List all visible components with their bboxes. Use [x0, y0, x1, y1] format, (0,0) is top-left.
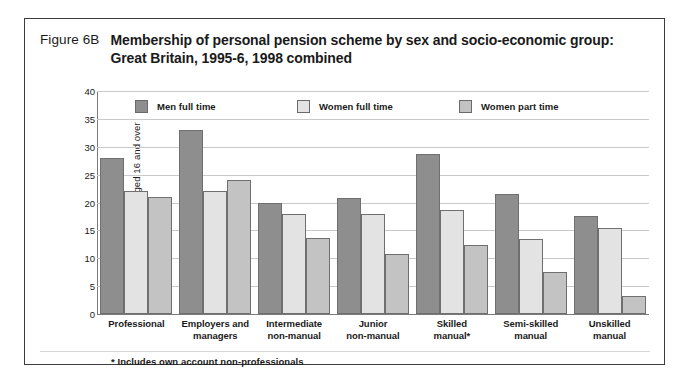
bar[interactable]: [416, 154, 440, 314]
y-axis-tick-label: 40: [65, 86, 95, 97]
y-axis-tick-labels: 0510152025303540: [65, 91, 95, 314]
x-axis-label-line: Skilled: [412, 318, 491, 330]
x-axis-category-label: Intermediatenon-manual: [255, 318, 334, 342]
bar[interactable]: [282, 214, 306, 314]
gridline: [97, 314, 649, 315]
bar[interactable]: [203, 191, 227, 314]
footnote-divider: [40, 351, 650, 352]
x-axis-category-label: Juniornon-manual: [334, 318, 413, 342]
x-axis-label-line: Intermediate: [255, 318, 334, 330]
bar[interactable]: [543, 272, 567, 314]
plot-area: [97, 91, 649, 314]
bar[interactable]: [361, 214, 385, 314]
legend-swatch-icon: [297, 100, 310, 113]
x-axis-category-label: Skilledmanual*: [412, 318, 491, 342]
bar[interactable]: [148, 197, 172, 314]
bar[interactable]: [100, 158, 124, 314]
legend-item-1[interactable]: Women full time: [297, 100, 393, 113]
x-axis-label-line: manual: [570, 330, 649, 342]
legend-label: Women part time: [481, 101, 559, 112]
bar-group: [570, 91, 649, 314]
y-axis-tick-label: 5: [65, 281, 95, 292]
x-axis-category-label: Unskilledmanual: [570, 318, 649, 342]
x-axis-label-line: managers: [176, 330, 255, 342]
bar[interactable]: [519, 239, 543, 314]
x-axis-label-line: non-manual: [255, 330, 334, 342]
y-axis-tick-label: 0: [65, 309, 95, 320]
x-axis-category-label: Professional: [97, 318, 176, 342]
x-axis-label-line: Unskilled: [570, 318, 649, 330]
x-axis-label-line: manual*: [412, 330, 491, 342]
bar[interactable]: [227, 180, 251, 314]
y-axis-tick-label: 30: [65, 141, 95, 152]
x-axis-category-labels: ProfessionalEmployers andmanagersInterme…: [97, 318, 649, 342]
bar[interactable]: [385, 254, 409, 314]
x-axis-label-line: Junior: [334, 318, 413, 330]
x-axis-label-line: non-manual: [334, 330, 413, 342]
y-axis-tick-label: 25: [65, 169, 95, 180]
figure-frame: Figure 6B Membership of personal pension…: [24, 18, 665, 365]
x-axis-category-label: Semi-skilledmanual: [491, 318, 570, 342]
figure-title: Membership of personal pension scheme by…: [110, 31, 650, 67]
bar[interactable]: [306, 238, 330, 314]
bar[interactable]: [179, 130, 203, 314]
figure-number: Figure 6B: [40, 31, 99, 67]
legend-swatch-icon: [135, 100, 148, 113]
legend-item-0[interactable]: Men full time: [135, 100, 216, 113]
y-axis-tick-label: 35: [65, 113, 95, 124]
x-axis-category-label: Employers andmanagers: [176, 318, 255, 342]
y-axis-tick-label: 15: [65, 225, 95, 236]
x-axis-label-line: Employers and: [176, 318, 255, 330]
bar[interactable]: [495, 194, 519, 314]
bar[interactable]: [574, 216, 598, 314]
bar-group: [334, 91, 413, 314]
bar[interactable]: [337, 198, 361, 314]
bar[interactable]: [622, 296, 646, 314]
legend-swatch-icon: [459, 100, 472, 113]
legend-label: Women full time: [319, 101, 393, 112]
bar[interactable]: [258, 203, 282, 315]
bar-groups: [97, 91, 649, 314]
figure-header: Figure 6B Membership of personal pension…: [40, 31, 650, 67]
bar-group: [97, 91, 176, 314]
x-axis-label-line: manual: [491, 330, 570, 342]
x-axis-label-line: Semi-skilled: [491, 318, 570, 330]
bar[interactable]: [124, 191, 148, 314]
y-axis-tick-label: 10: [65, 253, 95, 264]
x-axis-label-line: Professional: [97, 318, 176, 330]
bar[interactable]: [464, 245, 488, 314]
figure-footnote: * Includes own account non-professionals: [111, 356, 304, 367]
bar[interactable]: [440, 210, 464, 314]
bar-group: [255, 91, 334, 314]
y-axis-tick-label: 20: [65, 197, 95, 208]
bar[interactable]: [598, 228, 622, 314]
chart-legend: Men full timeWomen full timeWomen part t…: [97, 95, 649, 117]
legend-item-2[interactable]: Women part time: [459, 100, 559, 113]
bar-group: [412, 91, 491, 314]
legend-label: Men full time: [157, 101, 216, 112]
bar-group: [491, 91, 570, 314]
bar-group: [176, 91, 255, 314]
